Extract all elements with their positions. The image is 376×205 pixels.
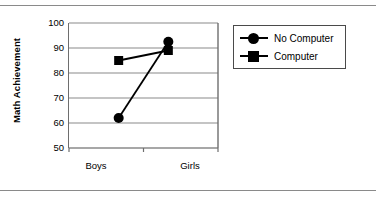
y-tick-label: 50 xyxy=(38,143,64,153)
data-point-marker xyxy=(163,37,173,47)
series-line xyxy=(119,51,169,61)
chart-figure: Math Achievement 100 90 80 70 60 50 Boys… xyxy=(0,0,376,205)
legend-label: No Computer xyxy=(268,33,333,44)
series-line xyxy=(119,42,169,118)
x-tick-label-boys: Boys xyxy=(66,160,126,171)
data-series-layer xyxy=(114,37,174,123)
y-axis-tick-labels: 100 90 80 70 60 50 xyxy=(36,0,64,205)
data-point-marker xyxy=(164,46,173,55)
legend-label: Computer xyxy=(268,51,318,62)
data-point-marker xyxy=(114,113,124,123)
x-axis-line xyxy=(69,23,218,152)
x-tick-label-girls: Girls xyxy=(160,160,220,171)
y-tick-label: 90 xyxy=(38,43,64,53)
legend-entry-computer: Computer xyxy=(240,48,318,64)
y-tick-label: 80 xyxy=(38,68,64,78)
plot-canvas xyxy=(69,23,218,148)
y-tick-label: 70 xyxy=(38,93,64,103)
square-marker-icon xyxy=(240,49,268,63)
y-tick-label: 60 xyxy=(38,118,64,128)
chart-legend: No Computer Computer xyxy=(233,25,346,69)
circle-marker-icon xyxy=(240,31,268,45)
y-tick-label: 100 xyxy=(38,18,64,28)
plot-area xyxy=(68,23,217,148)
gridlines xyxy=(69,23,218,148)
data-point-marker xyxy=(114,56,123,65)
legend-entry-no-computer: No Computer xyxy=(240,30,333,46)
y-axis-title: Math Achievement xyxy=(11,21,22,141)
